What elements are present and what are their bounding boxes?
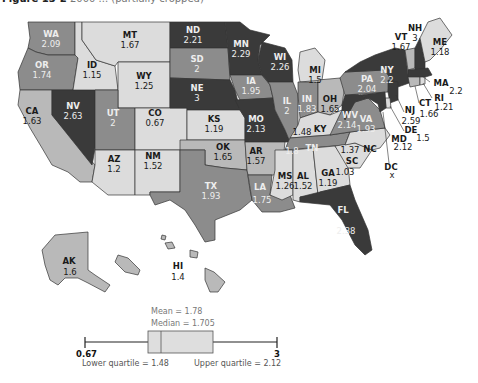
svg-text:1.83: 1.83 bbox=[298, 104, 317, 114]
svg-text:FL: FL bbox=[337, 205, 349, 215]
svg-text:AR: AR bbox=[249, 146, 263, 156]
svg-text:1.18: 1.18 bbox=[431, 47, 450, 57]
svg-text:CO: CO bbox=[148, 108, 161, 118]
svg-text:WV: WV bbox=[342, 110, 358, 120]
svg-text:2.63: 2.63 bbox=[64, 111, 83, 121]
svg-text:1.48: 1.48 bbox=[293, 127, 312, 137]
state-hi-big[interactable] bbox=[205, 268, 225, 292]
svg-text:3: 3 bbox=[412, 33, 417, 43]
svg-text:ID: ID bbox=[87, 60, 97, 70]
state-hi-kauai bbox=[161, 235, 166, 240]
svg-text:1.63: 1.63 bbox=[23, 116, 42, 126]
svg-text:AK: AK bbox=[62, 256, 76, 266]
state-sd[interactable] bbox=[170, 48, 230, 80]
state-ma[interactable] bbox=[408, 68, 432, 78]
us-choropleth-map: WA 2.09 OR 1.74 CA 1.63 NV 2.63 ID 1.15 … bbox=[0, 0, 478, 383]
svg-text:AZ: AZ bbox=[108, 154, 121, 164]
state-hi-oahu bbox=[165, 242, 175, 249]
svg-text:1.52: 1.52 bbox=[144, 161, 163, 171]
svg-text:IA: IA bbox=[246, 76, 256, 86]
svg-text:2.2: 2.2 bbox=[380, 75, 394, 85]
svg-text:OR: OR bbox=[35, 60, 49, 70]
svg-text:2.21: 2.21 bbox=[184, 35, 203, 45]
svg-text:1.5: 1.5 bbox=[308, 75, 322, 85]
svg-text:2.04: 2.04 bbox=[358, 84, 377, 94]
svg-text:PA: PA bbox=[361, 74, 373, 84]
svg-text:MS: MS bbox=[278, 171, 293, 181]
svg-text:TN: TN bbox=[306, 143, 319, 153]
svg-text:NC: NC bbox=[363, 144, 376, 154]
svg-text:1.15: 1.15 bbox=[83, 70, 102, 80]
svg-text:OK: OK bbox=[216, 142, 230, 152]
svg-text:KY: KY bbox=[314, 124, 328, 134]
box-plot-summary: Mean = 1.78 Median = 1.705 0.67 3 Lower … bbox=[76, 307, 281, 368]
state-ak[interactable] bbox=[42, 232, 110, 292]
svg-text:KS: KS bbox=[208, 114, 221, 124]
svg-text:1.8: 1.8 bbox=[285, 146, 299, 156]
svg-text:2: 2 bbox=[110, 118, 115, 128]
svg-text:IL: IL bbox=[283, 96, 292, 106]
svg-text:MA: MA bbox=[433, 78, 448, 88]
svg-text:3: 3 bbox=[274, 349, 280, 359]
svg-text:2.09: 2.09 bbox=[42, 39, 61, 49]
svg-text:1.93: 1.93 bbox=[202, 191, 221, 201]
svg-text:1.4: 1.4 bbox=[171, 272, 185, 282]
svg-text:MI: MI bbox=[309, 65, 321, 75]
svg-text:2: 2 bbox=[284, 106, 289, 116]
svg-text:1.26: 1.26 bbox=[276, 181, 295, 191]
svg-text:1.5: 1.5 bbox=[416, 133, 430, 143]
svg-text:SD: SD bbox=[190, 54, 203, 64]
svg-text:VA: VA bbox=[360, 114, 373, 124]
svg-text:2.2: 2.2 bbox=[449, 86, 463, 96]
svg-text:NV: NV bbox=[66, 101, 80, 111]
svg-text:1.03: 1.03 bbox=[336, 167, 355, 177]
boxplot-box bbox=[148, 331, 213, 353]
svg-text:2.13: 2.13 bbox=[247, 124, 266, 134]
svg-text:1.2: 1.2 bbox=[107, 164, 121, 174]
svg-text:OH: OH bbox=[323, 94, 337, 104]
svg-text:2: 2 bbox=[194, 64, 199, 74]
svg-text:1.6: 1.6 bbox=[63, 267, 77, 277]
state-ri[interactable] bbox=[420, 77, 425, 85]
svg-text:WI: WI bbox=[274, 52, 287, 62]
svg-text:TX: TX bbox=[205, 181, 218, 191]
svg-text:CT: CT bbox=[419, 98, 431, 108]
state-ak-panhandle bbox=[115, 255, 140, 275]
svg-text:1.37: 1.37 bbox=[341, 145, 360, 155]
svg-text:1.65: 1.65 bbox=[321, 104, 340, 114]
svg-text:1.67: 1.67 bbox=[121, 40, 140, 50]
state-ct[interactable] bbox=[408, 77, 420, 87]
svg-text:AL: AL bbox=[297, 171, 310, 181]
svg-text:NH: NH bbox=[408, 23, 422, 33]
svg-text:1.19: 1.19 bbox=[205, 124, 224, 134]
svg-text:1.67: 1.67 bbox=[392, 42, 411, 52]
svg-text:1.74: 1.74 bbox=[33, 70, 52, 80]
svg-text:WY: WY bbox=[136, 71, 152, 81]
svg-text:Upper quartile = 2.12: Upper quartile = 2.12 bbox=[194, 359, 281, 368]
svg-text:VT: VT bbox=[395, 32, 408, 42]
svg-text:Mean = 1.78: Mean = 1.78 bbox=[151, 307, 202, 316]
state-ne[interactable] bbox=[170, 78, 240, 110]
svg-text:ME: ME bbox=[433, 37, 447, 47]
svg-text:0.67: 0.67 bbox=[76, 349, 97, 359]
svg-text:1.19: 1.19 bbox=[319, 178, 338, 188]
svg-text:0.67: 0.67 bbox=[146, 118, 165, 128]
svg-text:1.95: 1.95 bbox=[242, 86, 261, 96]
svg-text:1.57: 1.57 bbox=[247, 156, 266, 166]
svg-text:MO: MO bbox=[248, 114, 264, 124]
svg-text:Lower quartile = 1.48: Lower quartile = 1.48 bbox=[82, 359, 169, 368]
svg-text:2.26: 2.26 bbox=[271, 62, 290, 72]
svg-text:NE: NE bbox=[191, 83, 204, 93]
svg-text:1.52: 1.52 bbox=[294, 181, 313, 191]
svg-text:SC: SC bbox=[346, 156, 358, 166]
svg-text:1.25: 1.25 bbox=[135, 81, 154, 91]
svg-text:CA: CA bbox=[26, 106, 39, 116]
svg-text:2.29: 2.29 bbox=[232, 49, 251, 59]
svg-text:MN: MN bbox=[233, 39, 249, 49]
svg-text:IN: IN bbox=[302, 94, 312, 104]
svg-text:3: 3 bbox=[194, 93, 199, 103]
svg-text:1.65: 1.65 bbox=[214, 152, 233, 162]
state-fl[interactable] bbox=[300, 185, 372, 255]
svg-text:NY: NY bbox=[380, 65, 394, 75]
svg-text:1.66: 1.66 bbox=[420, 109, 439, 119]
